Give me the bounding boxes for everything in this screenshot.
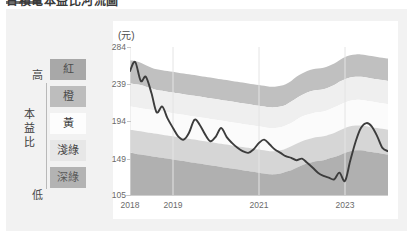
legend-swatch-orange[interactable]: 橙 <box>50 86 86 107</box>
x-axis-line <box>126 195 388 196</box>
legend-high-label: 高 <box>24 69 50 81</box>
x-axis-tick-label: 2021 <box>250 200 269 210</box>
y-axis-tick-label: 105 <box>112 190 126 200</box>
headline-title: 台積電本益比河流圖 <box>6 0 119 7</box>
legend-swatch-red[interactable]: 紅 <box>50 59 86 80</box>
pe-legend: 高 低 本 益 比 紅 橙 黃 淺綠 深綠 <box>6 29 106 214</box>
legend-axis-title-char-1: 本 <box>16 107 42 121</box>
x-axis-tick-label: 2018 <box>121 200 140 210</box>
legend-swatch-light-green[interactable]: 淺綠 <box>50 140 86 161</box>
y-axis-tick-mark <box>127 195 131 196</box>
x-axis-tick-label: 2019 <box>164 200 183 210</box>
plot-area: 1051491942392842018201920212023 <box>130 47 388 195</box>
y-axis-tick-label: 284 <box>112 42 126 52</box>
y-axis-tick-mark <box>127 159 131 160</box>
x-axis-tick-label: 2023 <box>336 200 355 210</box>
y-axis-tick-mark <box>127 121 131 122</box>
headline-strip: 台積電本益比河流圖 <box>0 0 413 7</box>
y-axis-tick-label: 239 <box>112 79 126 89</box>
legend-axis-line <box>46 83 47 189</box>
legend-swatch-dark-green[interactable]: 深綠 <box>50 167 86 188</box>
chart-panel: 高 低 本 益 比 紅 橙 黃 淺綠 深綠 (元) 10514919423928… <box>6 9 407 231</box>
legend-axis-title-char-2: 益 <box>16 121 42 135</box>
y-axis-tick-mark <box>127 47 131 48</box>
legend-swatch-list: 紅 橙 黃 淺綠 深綠 <box>50 59 90 188</box>
y-axis-tick-label: 149 <box>112 154 126 164</box>
legend-low-label: 低 <box>24 189 50 201</box>
y-axis-tick-mark <box>127 84 131 85</box>
y-axis-tick-label: 194 <box>112 116 126 126</box>
legend-axis-title: 本 益 比 <box>16 107 42 149</box>
legend-axis-title-char-3: 比 <box>16 135 42 149</box>
chart-screenshot: 台積電本益比河流圖 高 低 本 益 比 紅 橙 黃 淺綠 深綠 (元) <box>0 0 413 236</box>
river-chart-svg <box>130 47 388 195</box>
legend-swatch-yellow[interactable]: 黃 <box>50 113 86 134</box>
y-axis-unit-label: (元) <box>118 27 135 42</box>
